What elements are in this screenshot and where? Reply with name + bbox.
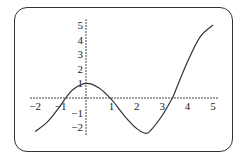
function-plot: −2−112345 54321−1−2 (0, 0, 241, 158)
x-tick-label: 4 (185, 100, 191, 112)
x-tick-label: 2 (134, 100, 140, 112)
x-tick-label: 5 (210, 100, 216, 112)
x-tick-label: 3 (159, 100, 165, 112)
y-tick-label: −1 (71, 107, 83, 119)
y-tick-label: 2 (78, 63, 84, 75)
x-tick-label: −2 (29, 100, 41, 112)
y-tick-label: 3 (78, 48, 84, 60)
y-tick-label: 4 (78, 34, 84, 46)
y-tick-label: −2 (71, 121, 83, 133)
y-tick-labels: 54321−1−2 (71, 19, 83, 133)
function-curve (35, 25, 213, 134)
y-tick-label: 5 (78, 19, 84, 31)
y-tick-label: 1 (78, 77, 84, 89)
